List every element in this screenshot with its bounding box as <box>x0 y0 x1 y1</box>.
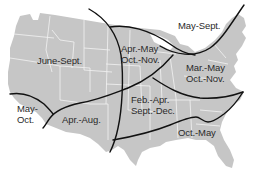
us-map-graphic <box>0 0 260 182</box>
label-north-central: Apr.-May Oct.-Nov. <box>121 43 160 65</box>
label-southeast-line1: Oct.-May <box>178 127 216 138</box>
label-southwest: Apr.-Aug. <box>62 114 101 125</box>
label-north-central-line2: Oct.-Nov. <box>121 54 160 65</box>
seasonal-map: June-Sept. Apr.-May Oct.-Nov. May-Sept. … <box>0 0 260 182</box>
label-southwest-line1: Apr.-Aug. <box>62 114 101 125</box>
label-california-coast: May- Oct. <box>17 103 38 125</box>
label-north-central-line1: Apr.-May <box>121 43 160 54</box>
label-southeast: Oct.-May <box>178 127 216 138</box>
label-south-central-line2: Sept.-Dec. <box>131 105 175 116</box>
label-northeast-north-line1: May-Sept. <box>178 20 220 31</box>
us-landmass <box>8 13 246 168</box>
label-northeast-mid: Mar.-May Oct.-Nov. <box>186 62 225 84</box>
label-northwest: June-Sept. <box>37 55 82 66</box>
label-south-central-line1: Feb.-Apr. <box>131 94 175 105</box>
label-south-central: Feb.-Apr. Sept.-Dec. <box>131 94 175 116</box>
label-northeast-north: May-Sept. <box>178 20 220 31</box>
label-northeast-mid-line2: Oct.-Nov. <box>186 73 225 84</box>
label-california-coast-line2: Oct. <box>17 114 38 125</box>
label-california-coast-line1: May- <box>17 103 38 114</box>
label-northeast-mid-line1: Mar.-May <box>186 62 225 73</box>
label-northwest-line1: June-Sept. <box>37 55 82 66</box>
